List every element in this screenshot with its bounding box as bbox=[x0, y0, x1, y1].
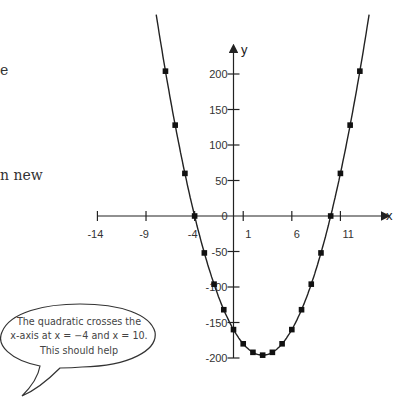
y-tick-label: 50 bbox=[215, 175, 227, 187]
data-point bbox=[289, 327, 295, 333]
data-point bbox=[192, 213, 198, 219]
speech-bubble-line-1: The quadratic crosses the bbox=[16, 316, 141, 327]
y-tick-label: 150 bbox=[209, 104, 227, 116]
y-tick-label: 200 bbox=[209, 68, 227, 80]
y-tick-label: 0 bbox=[221, 210, 227, 222]
data-point bbox=[221, 307, 227, 313]
data-point bbox=[328, 213, 334, 219]
data-point bbox=[357, 68, 363, 74]
data-point bbox=[250, 350, 256, 356]
x-axis-label: x bbox=[386, 208, 393, 223]
data-point bbox=[347, 122, 353, 128]
data-point bbox=[211, 281, 217, 287]
data-point bbox=[308, 281, 314, 287]
parabola-curve bbox=[156, 15, 369, 356]
data-point bbox=[202, 250, 208, 256]
data-point bbox=[172, 122, 178, 128]
data-points bbox=[163, 68, 363, 358]
data-point bbox=[318, 250, 324, 256]
data-point bbox=[240, 341, 246, 347]
y-tick-label: -150 bbox=[205, 317, 227, 329]
x-tick-label: 11 bbox=[342, 228, 353, 240]
speech-bubble-line-3: This should help bbox=[39, 345, 118, 356]
speech-bubble: The quadratic crosses the x-axis at x = … bbox=[1, 304, 156, 396]
speech-bubble-line-2: x-axis at x = −4 and x = 10. bbox=[10, 330, 147, 341]
x-tick-label: -4 bbox=[188, 228, 198, 240]
data-point bbox=[279, 341, 285, 347]
x-tick-label: -14 bbox=[87, 228, 103, 240]
data-point bbox=[231, 327, 237, 333]
x-tick-label: 6 bbox=[294, 228, 300, 240]
x-tick-label: 1 bbox=[245, 228, 251, 240]
x-tick-label: -9 bbox=[139, 228, 149, 240]
data-point bbox=[270, 350, 276, 356]
y-tick-label: -50 bbox=[212, 246, 228, 258]
data-point bbox=[299, 307, 305, 313]
data-point bbox=[163, 68, 169, 74]
y-axis-label: y bbox=[241, 42, 248, 57]
data-point bbox=[182, 171, 188, 177]
y-tick-label: 100 bbox=[209, 139, 227, 151]
quadratic-chart: xy-14-9-41611-200-150-100-50050100150200… bbox=[0, 0, 393, 405]
data-point bbox=[338, 171, 344, 177]
data-point bbox=[260, 352, 266, 358]
y-tick-label: -200 bbox=[205, 352, 227, 364]
